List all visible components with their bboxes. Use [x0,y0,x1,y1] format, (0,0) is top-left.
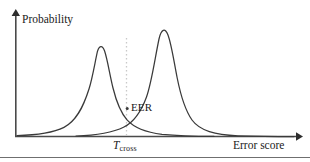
x-axis-label: Error score [233,140,284,152]
threshold-annotation-label: Tcross [113,140,137,153]
eer-annotation-label: EER [131,102,152,113]
threshold-subscript: cross [119,144,136,153]
y-axis-label: Probability [22,14,73,26]
y-axis [12,9,20,137]
x-axis-arrowhead [296,132,303,140]
eer-crossing-point [126,107,129,110]
bottom-divider [0,157,310,158]
eer-distribution-figure: Probability Error score EER Tcross [0,0,310,162]
curve-false-rejection [76,30,294,136]
y-axis-arrowhead [12,9,20,16]
curve-false-acceptance [17,47,214,137]
